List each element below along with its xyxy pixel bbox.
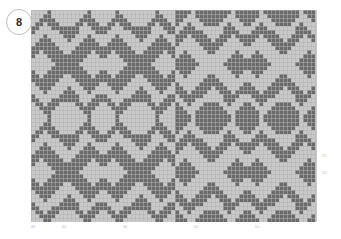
x-tick-label-3: 20 (194, 224, 198, 229)
y-tick-label-1: 10 (322, 170, 326, 175)
x-tick-label-0: 44 (31, 224, 35, 229)
pattern-grid-canvas[interactable] (31, 10, 317, 222)
y-tick-label-0: 11 (322, 153, 326, 158)
knitting-chart-figure: 8 4440302010 1110 (0, 0, 341, 239)
x-tick-label-4: 10 (255, 224, 259, 229)
x-tick-label-1: 40 (62, 224, 66, 229)
pattern-grid[interactable] (31, 10, 317, 222)
row-number-label: 8 (16, 17, 22, 28)
x-tick-label-2: 30 (123, 224, 127, 229)
row-number-badge: 8 (6, 9, 32, 35)
